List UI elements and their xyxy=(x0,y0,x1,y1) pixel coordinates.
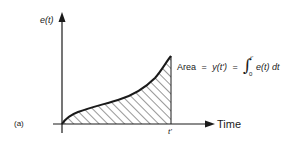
x-marker-label: t' xyxy=(168,128,172,136)
y-axis-arrow-icon xyxy=(59,12,66,22)
integral-lower-limit: 0 xyxy=(249,71,252,77)
equation-y-of-t-prime: y(t') xyxy=(212,62,227,72)
integral-upper-limit: t' xyxy=(250,55,253,61)
panel-label: (a) xyxy=(14,120,24,128)
equation-equals-1: = xyxy=(202,62,207,72)
equation-lhs: Area xyxy=(177,62,196,72)
y-axis-label: e(t) xyxy=(40,16,54,25)
area-equation: Area = y(t') = xyxy=(177,63,241,72)
x-axis-label: Time xyxy=(217,119,241,130)
equation-equals-2: = xyxy=(233,62,238,72)
x-axis-arrow-icon xyxy=(205,121,215,128)
hatched-area xyxy=(60,50,175,126)
equation-integrand: e(t) dt xyxy=(256,63,280,72)
